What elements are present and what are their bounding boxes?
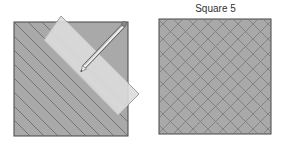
square-5-label: Square 5 bbox=[159, 3, 272, 14]
diagram-canvas bbox=[0, 0, 282, 149]
right-square bbox=[159, 0, 282, 149]
